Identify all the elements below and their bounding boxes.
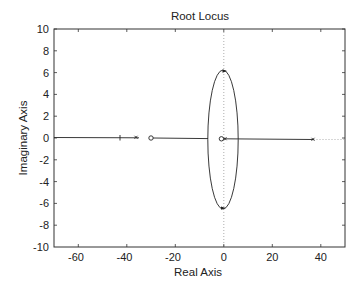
y-tick-label: 10 (37, 23, 49, 35)
chart-title: Root Locus (171, 10, 229, 22)
root-locus-chart: Root Locus (0, 0, 363, 287)
x-axis-label: Real Axis (174, 266, 222, 278)
locus-branch-right (224, 139, 314, 140)
zero-icon (219, 137, 223, 141)
y-tick-label: -10 (33, 241, 49, 253)
pole-icon (135, 136, 138, 139)
x-tick-label: -40 (117, 251, 133, 263)
y-tick-label: -2 (39, 154, 49, 166)
x-tick-label: -20 (165, 251, 181, 263)
y-tick-label: 6 (43, 67, 49, 79)
y-axis-label: Imaginary Axis (17, 100, 29, 175)
zero-icon (149, 136, 153, 140)
locus-branch-mid (153, 138, 208, 139)
plot-area (54, 29, 345, 247)
x-tick-label: -60 (68, 251, 84, 263)
y-tick-label: 2 (43, 110, 49, 122)
y-tick-label: 8 (43, 45, 49, 57)
x-tick-label: 20 (266, 251, 278, 263)
y-tick-label: 4 (43, 88, 49, 100)
y-tick-label: -4 (39, 176, 49, 188)
x-tick-label: 0 (221, 251, 227, 263)
y-tick-label: 0 (43, 132, 49, 144)
x-tick-label: 40 (315, 251, 327, 263)
y-tick-label: -8 (39, 219, 49, 231)
y-tick-label: -6 (39, 197, 49, 209)
x-axis: -60 -40 -20 0 20 40 Real Axis (68, 29, 327, 278)
